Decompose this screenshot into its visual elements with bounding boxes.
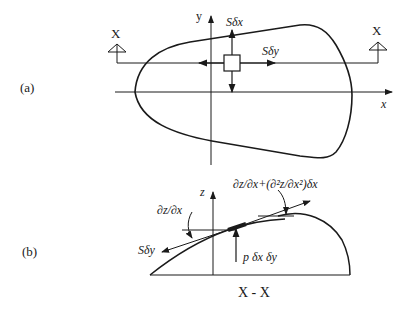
slope-right-label: ∂z/∂x+(∂²z/∂x²)δx (233, 177, 318, 191)
membrane-profile-right (278, 213, 350, 275)
membrane-profile-left (150, 219, 285, 275)
section-marker-right-icon (369, 42, 387, 50)
part-b-section-view: (b) z ∂z/∂x ∂z/∂x+(∂²z/∂x²)δx Sδy p δx δ… (22, 177, 350, 300)
section-marker-right-label: X (372, 23, 382, 38)
z-axis-label: z (199, 185, 205, 199)
section-line (117, 50, 378, 63)
x-axis-label: x (380, 97, 387, 111)
part-a-plan-view: (a) y x X X Sδx Sδy (20, 9, 392, 165)
section-marker-left-label: X (111, 26, 121, 41)
y-axis-label: y (196, 9, 202, 23)
slope-left-label: ∂z/∂x (157, 203, 183, 217)
tangent-left (162, 230, 228, 252)
pressure-label: p δx δy (242, 250, 277, 264)
tangent-right (246, 201, 310, 224)
membrane-element-section (228, 224, 246, 230)
part-b-label: (b) (22, 244, 37, 259)
section-label: X - X (238, 285, 270, 300)
force-up-label: Sδx (226, 15, 244, 29)
membrane-element (224, 55, 240, 71)
membrane-diagram: (a) y x X X Sδx Sδy (b) z ∂z/∂x ∂ (0, 0, 412, 311)
membrane-outline (135, 25, 352, 158)
angle-arc-left (188, 212, 192, 238)
tension-label: Sδy (138, 243, 156, 257)
section-marker-left-icon (108, 44, 126, 52)
part-a-label: (a) (20, 80, 34, 95)
force-right-label: Sδy (262, 44, 280, 58)
